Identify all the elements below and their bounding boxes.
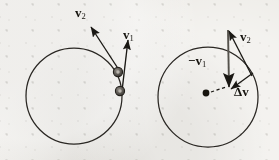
label-v2-right: v2	[240, 30, 251, 45]
label-delta-v-symbol: v	[242, 84, 249, 99]
vector-diagram-canvas	[0, 0, 279, 160]
label-v1-left: v1	[123, 28, 134, 43]
negative-velocity-v1-arrow	[228, 30, 229, 87]
label-v2-right-subscript: 2	[247, 35, 251, 45]
particle-position-1-highlight	[118, 89, 121, 92]
label-v2-left: v2	[75, 6, 86, 21]
circular-path	[26, 48, 122, 144]
particle-position-2-highlight	[116, 70, 119, 73]
label-negative-v1: −v1	[188, 54, 206, 69]
velocity-v1-arrow	[122, 40, 128, 91]
left-panel-group	[26, 27, 128, 144]
velocity-v2-arrow	[91, 27, 119, 70]
label-negative-v1-subscript: 1	[202, 59, 206, 69]
radius-dashed-line	[211, 87, 226, 92]
label-delta-v-sign: Δ	[234, 84, 242, 99]
physics-figure: v2 v1 −v1 v2 Δv	[0, 0, 279, 160]
label-delta-v: Δv	[234, 85, 249, 100]
label-v1-left-subscript: 1	[130, 33, 134, 43]
label-v2-left-subscript: 2	[82, 11, 86, 21]
circle-center-dot	[203, 90, 210, 97]
